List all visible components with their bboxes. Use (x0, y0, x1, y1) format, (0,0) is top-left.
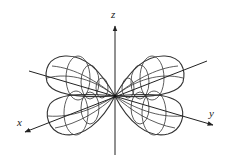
y-axis-label: y (209, 108, 214, 119)
origin-point (113, 94, 116, 97)
z-axis-label: z (111, 9, 115, 20)
lobe-left-lower (47, 91, 115, 135)
y-axis (29, 71, 213, 125)
axes (25, 26, 213, 155)
lobe-pattern-diagram: z x y (0, 0, 231, 166)
x-axis-label: x (17, 117, 22, 128)
diagram-canvas (0, 0, 231, 166)
